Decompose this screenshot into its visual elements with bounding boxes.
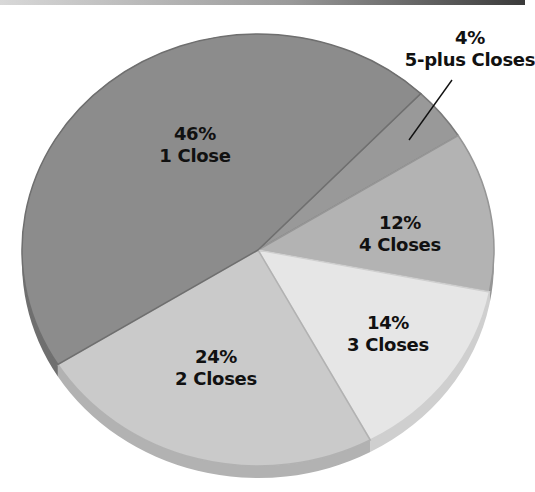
slice-label-2-closes: 24% 2 Closes [175,346,257,390]
slice-label-3-closes: 14% 3 Closes [347,312,429,356]
slice-pct: 46% [159,123,230,145]
slice-name: 4 Closes [359,234,441,256]
slice-pct: 14% [347,312,429,334]
slice-pct: 12% [359,212,441,234]
slice-pct: 4% [405,27,535,49]
slice-pct: 24% [175,346,257,368]
slice-name: 5-plus Closes [405,49,535,71]
slice-label-1-close: 46% 1 Close [159,123,230,167]
slice-name: 3 Closes [347,334,429,356]
slice-name: 1 Close [159,145,230,167]
slice-label-4-closes: 12% 4 Closes [359,212,441,256]
slice-name: 2 Closes [175,368,257,390]
slice-label-5-plus-closes: 4% 5-plus Closes [405,27,535,71]
